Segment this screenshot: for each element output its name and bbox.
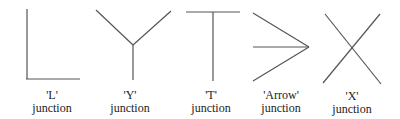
edge-line [253, 47, 309, 81]
junction-suffix: junction [171, 102, 251, 115]
edge-line [325, 14, 381, 84]
y-junction-figure [96, 10, 171, 80]
junction-suffix: junction [90, 102, 170, 115]
edge-line [133, 11, 171, 45]
label-t-junction: 'T' junction [171, 89, 251, 115]
junction-suffix: junction [312, 103, 392, 116]
junction-suffix: junction [12, 102, 92, 115]
edge-line [253, 13, 309, 47]
t-junction-figure [186, 12, 240, 81]
label-l-junction: 'L' junction [12, 89, 92, 115]
edge-line [96, 10, 133, 45]
label-arrow-junction: 'Arrow' junction [241, 89, 321, 115]
arrow-junction-figure [253, 13, 309, 81]
l-junction-figure [26, 9, 80, 79]
x-junction-figure [323, 14, 381, 84]
label-y-junction: 'Y' junction [90, 89, 170, 115]
junction-suffix: junction [241, 102, 321, 115]
label-x-junction: 'X' junction [312, 90, 392, 116]
